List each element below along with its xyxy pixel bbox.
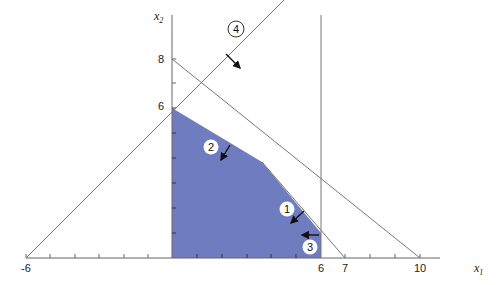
y-tick-label-8: 8 [158,53,164,65]
x-tick-label-neg6: -6 [21,262,31,274]
svg-text:1: 1 [284,203,290,215]
lp-diagram: 4 2 1 3 -6 6 7 10 6 8 x1 x2 [0,0,497,285]
diagram-canvas: 4 2 1 3 -6 6 7 10 6 8 x1 x2 [0,0,497,285]
arrow-constraint-4 [226,54,240,68]
y-axis-title: x2 [153,9,163,25]
x-axis-title: x1 [473,261,483,277]
svg-text:3: 3 [307,241,313,253]
constraint-label-4: 4 [228,21,244,37]
x-tick-label-10: 10 [414,262,426,274]
svg-text:4: 4 [233,23,239,35]
svg-text:2: 2 [208,141,214,153]
x-tick-label-6: 6 [318,262,324,274]
constraint-label-2: 2 [204,140,219,155]
constraint-label-1: 1 [280,202,295,217]
y-tick-label-6: 6 [158,100,164,112]
x-tick-label-7: 7 [342,262,348,274]
constraint-label-3: 3 [303,240,318,255]
feasible-region [172,108,321,258]
